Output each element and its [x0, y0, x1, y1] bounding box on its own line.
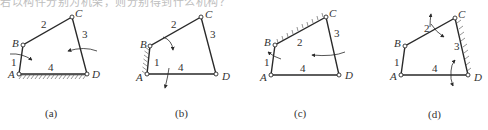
- joint-label-a: A: [7, 68, 15, 80]
- joint-label-c: C: [458, 8, 466, 20]
- link-label-1: 1: [11, 56, 17, 68]
- caption-a: (a): [45, 107, 58, 120]
- figure-c: A B C D 1 2 3 4 (c): [259, 7, 353, 120]
- caption-c: (c): [294, 107, 307, 120]
- link-label-2: 2: [297, 36, 303, 48]
- link-label-3: 3: [210, 28, 216, 40]
- joint-label-b: B: [394, 37, 401, 49]
- joint-label-a: A: [389, 70, 397, 82]
- joint-label-d: D: [221, 70, 230, 82]
- ground-hatch-link-4: [19, 75, 87, 79]
- link-label-4: 4: [432, 62, 438, 74]
- link-label-1: 1: [264, 56, 270, 68]
- rotation-arrow-icon: [163, 37, 173, 50]
- link-label-1: 1: [394, 56, 400, 68]
- link-label-4: 4: [300, 62, 306, 74]
- link-label-3: 3: [82, 28, 88, 40]
- link-label-2: 2: [41, 18, 47, 30]
- figure-a: A B C D 1 2 3 4 (a): [7, 7, 100, 120]
- rotation-arrow-icon: [165, 68, 169, 88]
- joint-label-c: C: [329, 7, 337, 19]
- rotation-arrow-icon: [430, 14, 431, 27]
- joint-label-c: C: [75, 7, 83, 19]
- joint-label-a: A: [259, 71, 267, 83]
- link-label-2: 2: [424, 22, 430, 34]
- four-bar-linkage-diagrams: A B C D 1 2 3 4 (a) A B C D 1 2 3 4 (b): [0, 0, 488, 130]
- figure-d: A B C D 1 2 3 4 (d): [389, 8, 482, 121]
- link-label-4: 4: [48, 61, 54, 73]
- joint-label-b: B: [140, 38, 147, 50]
- rotation-arrow-icon: [68, 49, 97, 52]
- joint-label-b: B: [264, 36, 271, 48]
- link-label-2: 2: [171, 18, 177, 30]
- caption-d: (d): [428, 108, 441, 121]
- joint-label-c: C: [205, 8, 213, 20]
- rotation-arrow-icon: [312, 52, 345, 56]
- joint-label-d: D: [344, 69, 353, 81]
- joint-label-d: D: [91, 68, 100, 80]
- joint-label-a: A: [135, 71, 143, 83]
- rotation-arrow-icon: [451, 71, 453, 86]
- joint-label-b: B: [12, 37, 19, 49]
- link-label-3: 3: [334, 27, 340, 39]
- link-label-3: 3: [454, 40, 460, 52]
- joint-label-d: D: [473, 71, 482, 83]
- link-label-1: 1: [154, 56, 160, 68]
- rotation-arrow-icon: [451, 60, 455, 71]
- caption-b: (b): [175, 107, 188, 120]
- figure-b: A B C D 1 2 3 4 (b): [135, 8, 230, 120]
- link-label-4: 4: [178, 61, 184, 73]
